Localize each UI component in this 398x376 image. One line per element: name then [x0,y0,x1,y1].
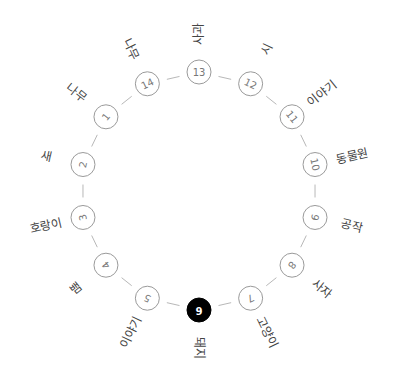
node-label: 새 [39,148,53,164]
node-label: 호랑이 [28,215,63,236]
node-label: 나무 [120,37,142,63]
node-3[interactable]: 3호랑이 [28,205,95,236]
node-label: 사과 [192,23,206,45]
edge [301,135,307,147]
edge [167,76,180,79]
node-1[interactable]: 1나무 [63,81,118,129]
node-13[interactable]: 13사과 [187,23,211,84]
node-number: 13 [193,67,206,78]
node-number: 6 [195,305,202,316]
node-label: 이야기 [304,77,339,109]
edges [83,76,315,305]
node-label: 사자 [309,277,335,302]
circular-diagram: 1나무2새3호랑이4뱀5이야기6돼지7고양이8사자9공작10동물원11이야기12… [0,0,398,376]
node-label: 돼지 [192,337,206,359]
edge [122,96,132,104]
edge [218,76,231,79]
edge [92,135,98,147]
node-label: 공작 [340,217,365,236]
node-label: 동물원 [334,146,369,167]
edge [301,235,307,247]
node-label: 이야기 [117,315,144,351]
nodes: 1나무2새3호랑이4뱀5이야기6돼지7고양이8사자9공작10동물원11이야기12… [28,23,369,359]
node-5[interactable]: 5이야기 [117,286,159,350]
node-11[interactable]: 11이야기 [280,77,339,128]
node-10[interactable]: 10동물원 [303,146,370,177]
node-9[interactable]: 9공작 [303,205,364,235]
edge [122,278,132,286]
node-6[interactable]: 6돼지 [187,298,211,359]
edge [218,303,231,306]
node-label: 고양이 [254,315,281,351]
node-12[interactable]: 12시 [239,42,276,96]
edge [167,303,180,306]
node-label: 시 [258,42,275,58]
node-label: 뱀 [68,280,85,298]
node-label: 나무 [63,81,89,106]
node-14[interactable]: 14나무 [120,37,160,96]
node-7[interactable]: 7고양이 [239,286,281,350]
node-8[interactable]: 8사자 [280,253,335,301]
edge [92,235,98,247]
edge [266,96,276,104]
node-4[interactable]: 4뱀 [68,253,118,298]
node-2[interactable]: 2새 [39,148,95,177]
edge [266,278,276,286]
